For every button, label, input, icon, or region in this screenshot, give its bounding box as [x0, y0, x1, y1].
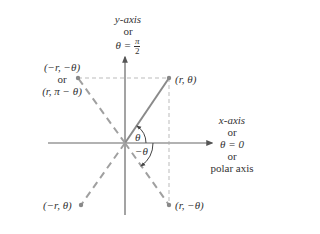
x-axis-label-polar-axis: polar axis — [202, 162, 262, 174]
y-axis-label-theta: θ = π 2 — [104, 37, 152, 56]
label-q1: (r, θ) — [175, 73, 196, 85]
x-axis-label: x-axis or θ = 0 or polar axis — [202, 114, 262, 174]
angle-label-neg-theta: −θ — [135, 145, 148, 157]
point-q4 — [167, 203, 171, 207]
point-q1 — [167, 76, 171, 80]
label-q2: (−r, −θ) or (r, π − θ) — [38, 61, 86, 97]
pi-over-2-fraction: π 2 — [134, 37, 141, 56]
point-q3 — [79, 203, 83, 207]
label-q2-line3: (r, π − θ) — [38, 85, 86, 97]
theta-equals: θ = — [116, 39, 132, 51]
x-axis-label-theta-zero: θ = 0 — [202, 138, 262, 150]
x-axis-label-or1: or — [202, 126, 262, 138]
fraction-denominator: 2 — [135, 47, 140, 56]
label-q2-or: or — [38, 73, 86, 85]
label-q3: (−r, θ) — [43, 199, 72, 211]
y-axis-label-or: or — [104, 25, 152, 37]
y-axis-label-line1: y-axis — [104, 13, 152, 25]
ray-r-theta — [125, 78, 169, 143]
label-q2-line1: (−r, −θ) — [38, 61, 86, 73]
x-axis-label-line1: x-axis — [202, 114, 262, 126]
label-q4: (r, −θ) — [175, 199, 204, 211]
y-axis-label: y-axis or θ = π 2 — [104, 13, 152, 56]
angle-label-theta: θ — [135, 131, 140, 143]
x-axis-label-or2: or — [202, 150, 262, 162]
ray-neg-r-theta — [81, 143, 125, 205]
